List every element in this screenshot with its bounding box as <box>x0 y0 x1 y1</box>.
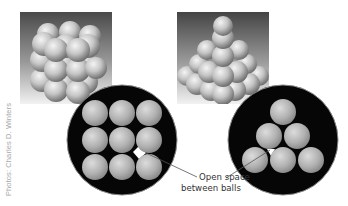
square-packing-diagram <box>66 84 178 196</box>
annotation-label-line1: Open space <box>199 172 250 183</box>
photo-credit: Photos: Charles D. Winters <box>4 103 13 196</box>
annotation-label-line2: between balls <box>181 183 241 194</box>
square-packing-svg <box>66 84 178 196</box>
